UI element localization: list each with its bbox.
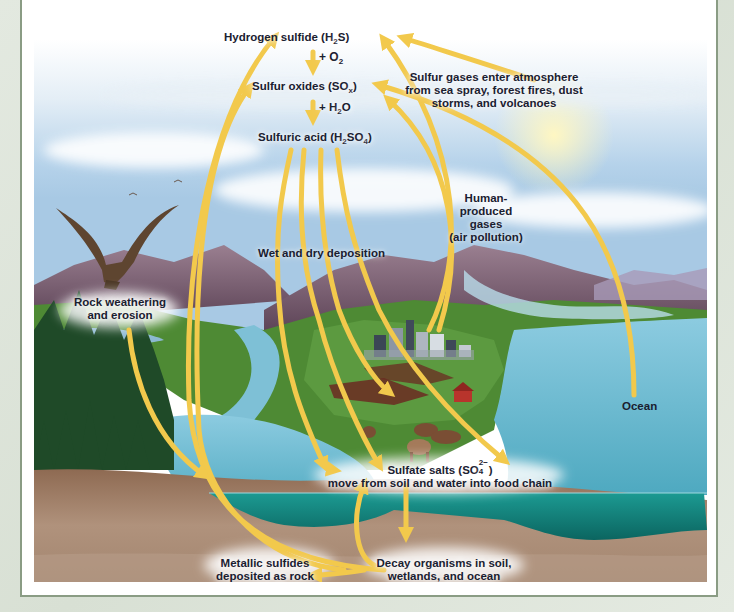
label-line: Decay organisms in soil,	[364, 557, 524, 570]
plus-h2o-label: + H2O	[319, 101, 351, 114]
label-line: Rock weathering	[60, 296, 180, 309]
label-text: + O	[319, 50, 339, 64]
label-line: (air pollution)	[436, 231, 536, 244]
label-text: Sulfate salts (SO	[387, 464, 478, 476]
label-text: Hydrogen sulfide (H	[224, 31, 333, 43]
label-line: Sulfate salts (SO2−4)	[310, 464, 570, 477]
label-line: storms, and volcanoes	[394, 97, 594, 110]
ion-charge: 2−4	[479, 464, 489, 474]
sulfur-cycle-illustration: Hydrogen sulfide (H2S) + O2 Sulfur oxide…	[34, 0, 707, 582]
label-line: gases	[436, 218, 536, 231]
label-text: Wet and dry deposition	[258, 247, 385, 259]
sulfuric-acid-label: Sulfuric acid (H2SO4)	[258, 131, 372, 144]
label-text: Ocean	[622, 400, 657, 412]
label-text: Sulfuric acid (H	[258, 131, 342, 143]
label-line: from sea spray, forest fires, dust	[394, 84, 594, 97]
label-line: Sulfur gases enter atmosphere	[394, 71, 594, 84]
subscript: 2	[339, 57, 343, 66]
hydrogen-sulfide-label: Hydrogen sulfide (H2S)	[224, 31, 349, 44]
label-text: S)	[338, 31, 350, 43]
label-line: Metallic sulfides	[205, 557, 325, 570]
label-text: )	[368, 131, 372, 143]
sulfur-oxides-label: Sulfur oxides (SOx)	[252, 80, 357, 93]
label-line: deposited as rock	[205, 570, 325, 582]
label-text: SO	[347, 131, 364, 143]
label-line: wetlands, and ocean	[364, 570, 524, 582]
label-line: move from soil and water into food chain	[310, 477, 570, 490]
label-line: Human-	[436, 192, 536, 205]
wet-dry-deposition-label: Wet and dry deposition	[258, 247, 385, 260]
ocean-label: Ocean	[622, 400, 657, 413]
label-text: O	[342, 101, 351, 113]
label-text: )	[489, 464, 493, 476]
illustration-svg	[34, 0, 707, 582]
label-line: produced	[436, 205, 536, 218]
label-text: )	[353, 80, 357, 92]
label-text: + H	[319, 101, 337, 113]
label-text: Sulfur oxides (SO	[252, 80, 349, 92]
label-line: and erosion	[60, 309, 180, 322]
plus-o2-label: + O2	[319, 51, 343, 64]
